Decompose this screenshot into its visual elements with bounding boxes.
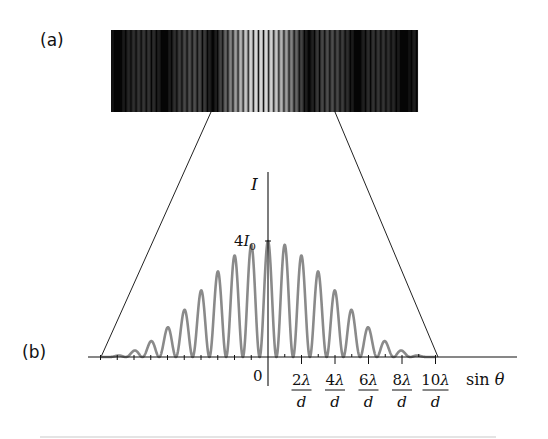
axes <box>88 172 517 386</box>
x-tick-label-6lambda-over-d: 6λd <box>359 371 379 411</box>
svg-text:d: d <box>397 393 407 411</box>
axis-labels: I4I002λd4λd6λd8λd10λdsin θ <box>234 174 505 411</box>
figure-canvas: I4I002λd4λd6λd8λd10λdsin θ <box>0 0 548 439</box>
svg-text:8λ: 8λ <box>392 371 411 389</box>
x-tick-label-8lambda-over-d: 8λd <box>392 371 412 411</box>
divider <box>40 436 496 438</box>
x-tick-label-2lambda-over-d: 2λd <box>292 371 312 411</box>
x-axis-label: sin θ <box>466 370 505 389</box>
svg-text:d: d <box>364 393 374 411</box>
svg-text:d: d <box>330 393 340 411</box>
svg-text:2λ: 2λ <box>292 371 311 389</box>
svg-text:10λ: 10λ <box>421 371 450 389</box>
svg-text:4λ: 4λ <box>325 371 344 389</box>
projection-lines <box>101 112 438 357</box>
y-axis-label: I <box>250 174 258 194</box>
svg-text:6λ: 6λ <box>359 371 378 389</box>
interference-figure: (a) (b) I4I002λd4λd6λd8λd10λdsin θ <box>0 0 548 439</box>
x-tick-label-4lambda-over-d: 4λd <box>325 371 345 411</box>
x-tick-label-10lambda-over-d: 10λd <box>421 371 450 411</box>
svg-text:d: d <box>297 393 307 411</box>
y-tick-4I0: 4I0 <box>234 232 256 252</box>
fringe-pattern-photo <box>111 30 418 112</box>
svg-text:d: d <box>431 393 441 411</box>
origin-label: 0 <box>253 367 263 385</box>
